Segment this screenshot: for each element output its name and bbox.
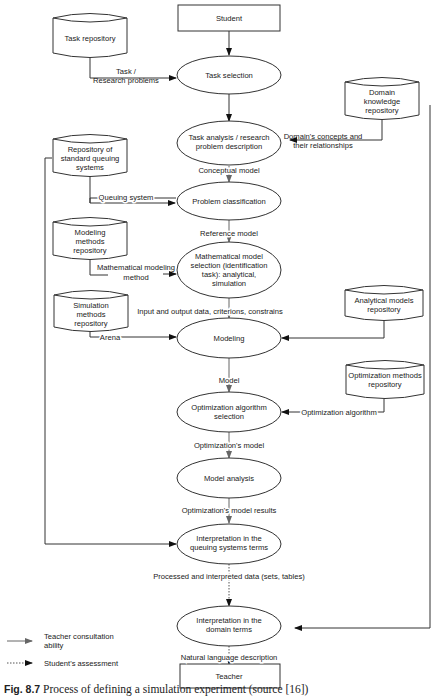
student-label: Student bbox=[216, 14, 243, 23]
queuing-repo-label-2: standard queuing bbox=[61, 154, 120, 163]
math-model-label-3: task): analytical, bbox=[202, 270, 256, 279]
domain-repo-label-2: knowledge bbox=[364, 97, 400, 106]
optimization-selection-label-2: selection bbox=[214, 412, 244, 421]
modeling-repo-label-1: Modeling bbox=[75, 228, 106, 237]
model-analysis-label: Model analysis bbox=[204, 474, 254, 483]
legend: Teacher consultation ability Student's a… bbox=[7, 632, 119, 668]
caption-label: Fig. 8.7 bbox=[4, 683, 40, 695]
figure-caption: Fig. 8.7 Process of defining a simulatio… bbox=[4, 683, 308, 695]
edge-label-math-method-1: Mathematical modeling bbox=[97, 263, 175, 272]
edge-label-task-1: Task / bbox=[116, 67, 137, 76]
analytical-repo-label-1: Analytical models bbox=[354, 296, 413, 305]
simulation-repo-label-1: Simulation bbox=[73, 301, 108, 310]
edge-label-domain-2: their relationships bbox=[293, 141, 353, 150]
math-model-label-2: selection (identification bbox=[191, 261, 268, 270]
legend-teacher-label-1: Teacher consultation bbox=[44, 632, 114, 641]
analytical-repo-label-2: repository bbox=[367, 305, 401, 314]
modeling-repo-label-2: methods bbox=[75, 237, 104, 246]
caption-text: Process of defining a simulation experim… bbox=[43, 683, 308, 695]
interp-domain-label-2: domain terms bbox=[206, 625, 252, 634]
interp-queuing-label-1: Interpretation in the bbox=[196, 534, 261, 543]
optimization-repo-label-1: Optimization methods bbox=[348, 371, 422, 380]
optimization-selection-label-1: Optimization algorithm bbox=[191, 403, 267, 412]
legend-teacher-label-2: ability bbox=[44, 641, 64, 650]
edge-label-task-2: Research problems bbox=[93, 76, 159, 85]
edge-label-queuing-system: Queuing system bbox=[99, 193, 154, 202]
problem-classification-label: Problem classification bbox=[192, 197, 265, 206]
edge-label-math-method-2: method bbox=[123, 273, 148, 282]
edge-label-optimizations-results: Optimization's model results bbox=[182, 506, 277, 515]
task-analysis-label-2: problem description bbox=[196, 142, 262, 151]
edge-queuing-to-interp bbox=[45, 158, 176, 544]
edge-analytical bbox=[282, 320, 384, 338]
edge-label-reference-model: Reference model bbox=[200, 229, 258, 238]
task-selection-label: Task selection bbox=[205, 71, 253, 80]
edge-label-domain-1: Domain's concepts and bbox=[284, 132, 363, 141]
modeling-label: Modeling bbox=[214, 334, 245, 343]
queuing-repo-label-3: systems bbox=[76, 163, 104, 172]
domain-repo-label-1: Domain bbox=[369, 88, 395, 97]
interp-queuing-label-2: queuing systems terms bbox=[190, 543, 268, 552]
task-repo-label: Task repository bbox=[64, 34, 115, 43]
edge-label-natural-language: Natural language description bbox=[181, 653, 278, 662]
interp-domain-label-1: Interpretation in the bbox=[196, 616, 261, 625]
legend-student-label: Student's assessment bbox=[44, 659, 119, 668]
domain-repo-label-3: repository bbox=[365, 106, 399, 115]
simulation-repo-label-3: repository bbox=[74, 319, 108, 328]
queuing-repo-label-1: Repository of bbox=[68, 145, 114, 154]
edge-label-optimization-algorithm: Optimization algorithm bbox=[301, 408, 377, 417]
simulation-repo-label-2: methods bbox=[76, 310, 105, 319]
task-analysis-label-1: Task analysis / research bbox=[188, 133, 269, 142]
math-model-label-4: simulation bbox=[212, 279, 246, 288]
edge-label-optimizations-model: Optimization's model bbox=[194, 441, 265, 450]
edge-label-model: Model bbox=[219, 376, 240, 385]
edge-label-arena: Arena bbox=[100, 333, 121, 342]
optimization-repo-label-2: repository bbox=[368, 380, 402, 389]
edge-label-processed-data: Processed and interpreted data (sets, ta… bbox=[153, 572, 305, 581]
modeling-repo-label-3: repository bbox=[73, 246, 107, 255]
teacher-label: Teacher bbox=[215, 672, 242, 681]
math-model-label-1: Mathematical model bbox=[195, 252, 263, 261]
edge-label-conceptual-model: Conceptual model bbox=[198, 166, 260, 175]
edge-label-io-data: Input and output data, criterions, const… bbox=[137, 307, 283, 316]
